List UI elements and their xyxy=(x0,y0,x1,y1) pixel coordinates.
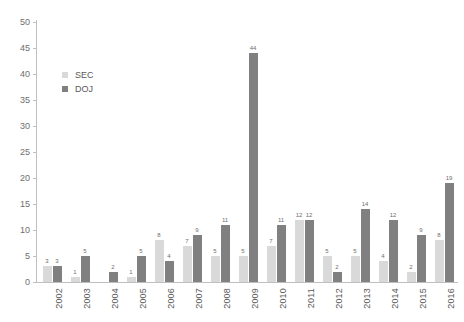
bar-group: 33 xyxy=(36,22,64,282)
bar-value-label: 2 xyxy=(409,264,412,270)
bar-value-label: 5 xyxy=(325,248,328,254)
bar-group: 79 xyxy=(176,22,204,282)
bar-sec-2003 xyxy=(71,277,80,282)
bar-group: 1212 xyxy=(288,22,316,282)
bar-value-label: 2 xyxy=(111,264,114,270)
bar-doj-2015 xyxy=(417,235,426,282)
x-tick-label: 2012 xyxy=(334,288,344,309)
x-tick-label: 2011 xyxy=(306,288,316,308)
bar-value-label: 14 xyxy=(362,201,369,207)
y-tick-label: 35 xyxy=(0,96,30,105)
bar-value-label: 12 xyxy=(306,212,313,218)
y-tick-label: 10 xyxy=(0,226,30,235)
bar-sec-2016 xyxy=(435,240,444,282)
x-tick-label: 2009 xyxy=(250,288,260,309)
bar-value-label: 11 xyxy=(222,217,228,223)
bar-value-label: 2 xyxy=(335,264,338,270)
bar-doj-2009 xyxy=(249,53,258,282)
x-tick-label: 2015 xyxy=(418,288,428,309)
bar-value-label: 44 xyxy=(250,45,257,51)
bar-doj-2006 xyxy=(165,261,174,282)
bar-doj-2011 xyxy=(305,220,314,282)
bar-sec-2011 xyxy=(295,220,304,282)
bar-sec-2013 xyxy=(351,256,360,282)
legend-swatch-sec-icon xyxy=(62,72,68,78)
y-tick-label: 30 xyxy=(0,122,30,131)
bar-value-label: 11 xyxy=(278,217,284,223)
bar-group: 412 xyxy=(372,22,400,282)
bar-value-label: 19 xyxy=(446,175,453,181)
bar-value-label: 3 xyxy=(45,258,48,264)
x-axis-line xyxy=(36,282,458,283)
legend-label-sec: SEC xyxy=(75,71,94,80)
bar-sec-2005 xyxy=(127,277,136,282)
bar-sec-2009 xyxy=(239,256,248,282)
bar-value-label: 12 xyxy=(296,212,303,218)
bar-group: 2 xyxy=(92,22,120,282)
bar-doj-2002 xyxy=(53,266,62,282)
bar-sec-2010 xyxy=(267,246,276,282)
bar-sec-2015 xyxy=(407,272,416,282)
bar-doj-2008 xyxy=(221,225,230,282)
y-tick-label: 15 xyxy=(0,200,30,209)
y-tick-label: 0 xyxy=(0,278,30,287)
bar-sec-2007 xyxy=(183,246,192,282)
legend-label-doj: DOJ xyxy=(75,85,93,94)
y-tick-label: 40 xyxy=(0,70,30,79)
bar-group: 29 xyxy=(400,22,428,282)
bar-value-label: 9 xyxy=(195,227,198,233)
bar-group: 52 xyxy=(316,22,344,282)
bar-group: 514 xyxy=(344,22,372,282)
bar-group: 15 xyxy=(64,22,92,282)
bar-sec-2012 xyxy=(323,256,332,282)
bar-value-label: 9 xyxy=(419,227,422,233)
bar-group: 15 xyxy=(120,22,148,282)
y-tick-label: 5 xyxy=(0,252,30,261)
bar-doj-2003 xyxy=(81,256,90,282)
bar-doj-2010 xyxy=(277,225,286,282)
bar-doj-2013 xyxy=(361,209,370,282)
bar-chart: 05101520253035404550 3315215847951154471… xyxy=(0,0,464,322)
bar-value-label: 5 xyxy=(213,248,216,254)
x-tick-label: 2007 xyxy=(194,288,204,309)
legend-item-doj: DOJ xyxy=(62,82,94,96)
bar-doj-2014 xyxy=(389,220,398,282)
bar-value-label: 7 xyxy=(185,238,188,244)
y-tick-label: 20 xyxy=(0,174,30,183)
y-tick-mark xyxy=(33,282,36,283)
x-tick-label: 2014 xyxy=(390,288,400,309)
bar-value-label: 5 xyxy=(139,248,142,254)
bar-value-label: 3 xyxy=(55,258,58,264)
bar-doj-2016 xyxy=(445,183,454,282)
bar-group: 544 xyxy=(232,22,260,282)
bar-group: 511 xyxy=(204,22,232,282)
x-tick-label: 2002 xyxy=(54,288,64,309)
legend-swatch-doj-icon xyxy=(62,86,68,92)
bar-sec-2006 xyxy=(155,240,164,282)
bar-value-label: 1 xyxy=(73,269,76,275)
x-tick-label: 2004 xyxy=(110,288,120,309)
bar-value-label: 4 xyxy=(167,253,170,259)
bar-group: 819 xyxy=(428,22,456,282)
bar-value-label: 8 xyxy=(157,232,160,238)
bar-sec-2002 xyxy=(43,266,52,282)
bar-value-label: 5 xyxy=(241,248,244,254)
bar-group: 711 xyxy=(260,22,288,282)
x-tick-label: 2008 xyxy=(222,288,232,309)
bar-value-label: 7 xyxy=(269,238,272,244)
bar-doj-2004 xyxy=(109,272,118,282)
y-axis-tick-labels: 05101520253035404550 xyxy=(0,0,30,322)
bar-sec-2008 xyxy=(211,256,220,282)
bar-value-label: 4 xyxy=(381,253,384,259)
bar-doj-2005 xyxy=(137,256,146,282)
plot-area: 3315215847951154471112125251441229819 xyxy=(36,22,456,282)
bar-doj-2012 xyxy=(333,272,342,282)
x-tick-label: 2005 xyxy=(138,288,148,309)
y-tick-label: 45 xyxy=(0,44,30,53)
bar-group: 84 xyxy=(148,22,176,282)
x-tick-label: 2010 xyxy=(278,288,288,309)
x-tick-label: 2016 xyxy=(446,288,456,309)
bar-sec-2014 xyxy=(379,261,388,282)
x-tick-label: 2013 xyxy=(362,288,372,309)
bar-value-label: 1 xyxy=(129,269,132,275)
